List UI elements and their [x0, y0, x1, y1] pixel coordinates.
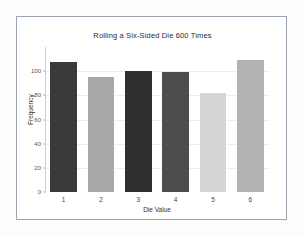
figure-canvas: Rolling a Six-Sided Die 600 Times Freque…	[0, 0, 304, 237]
y-tick-label: 40	[34, 141, 41, 147]
bar-6	[237, 60, 264, 192]
x-tick-label-4: 4	[174, 196, 178, 203]
x-tick-label-3: 3	[137, 196, 141, 203]
chart-frame: Rolling a Six-Sided Die 600 Times Freque…	[16, 16, 287, 220]
bar-5	[200, 93, 227, 192]
y-tick-label: 0	[38, 189, 41, 195]
x-tick-label-6: 6	[249, 196, 253, 203]
bars-group	[45, 47, 269, 192]
y-tick-label: 80	[34, 92, 41, 98]
y-axis-label: Frequency	[27, 94, 34, 125]
plot-area: 020406080100 123456 Die Value	[45, 47, 269, 192]
x-tick-label-1: 1	[62, 196, 66, 203]
bar-1	[50, 62, 77, 193]
y-tick-label: 100	[31, 68, 41, 74]
bar-3	[125, 71, 152, 192]
y-tick-label: 20	[34, 165, 41, 171]
bar-4	[162, 72, 189, 192]
x-tick-label-5: 5	[211, 196, 215, 203]
x-tick-label-2: 2	[99, 196, 103, 203]
y-tick-label: 60	[34, 117, 41, 123]
x-axis-label: Die Value	[45, 206, 269, 213]
chart-title: Rolling a Six-Sided Die 600 Times	[17, 31, 288, 40]
bar-2	[88, 77, 115, 192]
